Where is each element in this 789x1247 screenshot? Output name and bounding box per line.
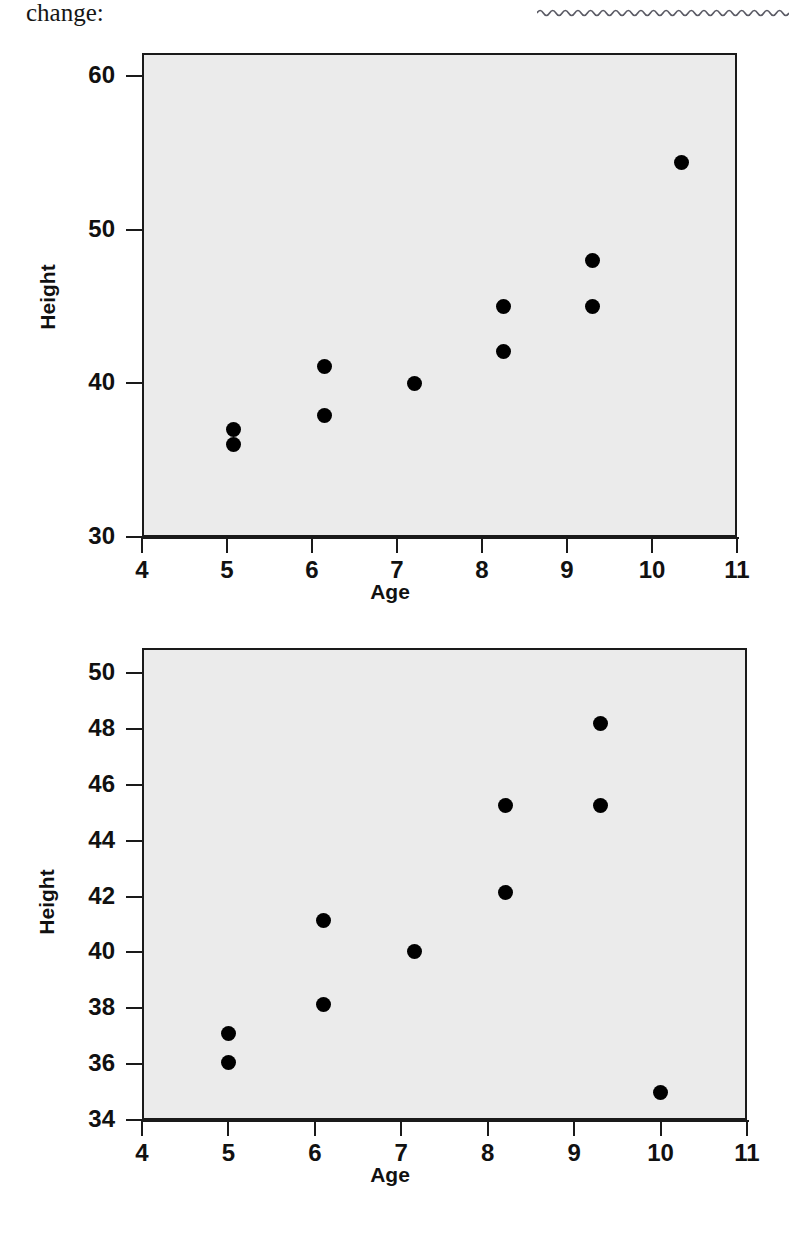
x-tick-mark	[311, 537, 313, 553]
x-axis-title-bottom: Age	[340, 1163, 440, 1187]
plot-area-top	[142, 53, 737, 537]
x-tick-mark	[651, 537, 653, 553]
x-tick-mark	[141, 1120, 143, 1136]
x-tick-mark	[736, 537, 738, 553]
x-tick-mark	[227, 1120, 229, 1136]
y-tick-label-top-3: 60	[27, 61, 115, 89]
x-tick-label-top-1: 5	[197, 556, 257, 584]
x-axis-title-top: Age	[340, 580, 440, 604]
x-tick-mark	[566, 537, 568, 553]
x-tick-mark	[573, 1120, 575, 1136]
y-tick-mark	[126, 229, 142, 231]
x-tick-label-bottom-5: 9	[544, 1139, 604, 1167]
plot-area-bottom	[142, 648, 747, 1120]
x-tick-label-top-2: 6	[282, 556, 342, 584]
y-tick-mark	[126, 1119, 142, 1121]
x-tick-label-bottom-2: 6	[285, 1139, 345, 1167]
data-point	[593, 798, 608, 813]
y-tick-mark	[126, 382, 142, 384]
y-tick-mark	[126, 896, 142, 898]
y-tick-label-bottom-6: 46	[27, 770, 115, 798]
y-tick-mark	[126, 536, 142, 538]
data-point	[407, 376, 422, 391]
x-tick-mark	[141, 537, 143, 553]
data-point	[674, 155, 689, 170]
data-point	[585, 253, 600, 268]
scatter-chart-bottom: 343638404244464850 4567891011 Age Height	[0, 630, 786, 1247]
data-point	[221, 1026, 236, 1041]
y-tick-label-top-0: 30	[27, 522, 115, 550]
y-tick-label-bottom-8: 50	[27, 658, 115, 686]
x-tick-label-top-7: 11	[707, 556, 767, 584]
x-tick-label-bottom-4: 8	[458, 1139, 518, 1167]
x-tick-mark	[481, 537, 483, 553]
x-tick-label-bottom-0: 4	[112, 1139, 172, 1167]
y-tick-mark	[126, 840, 142, 842]
data-point	[496, 299, 511, 314]
y-tick-label-top-2: 50	[27, 215, 115, 243]
x-tick-label-top-4: 8	[452, 556, 512, 584]
y-tick-label-bottom-0: 34	[27, 1105, 115, 1133]
y-tick-label-bottom-7: 48	[27, 714, 115, 742]
data-point	[585, 299, 600, 314]
y-tick-label-bottom-1: 36	[27, 1049, 115, 1077]
x-tick-mark	[314, 1120, 316, 1136]
y-tick-mark	[126, 75, 142, 77]
y-tick-label-bottom-2: 38	[27, 993, 115, 1021]
data-point	[498, 885, 513, 900]
x-tick-mark	[226, 537, 228, 553]
y-axis-title-top: Height	[36, 247, 60, 347]
data-point	[496, 344, 511, 359]
x-tick-label-bottom-7: 11	[717, 1139, 777, 1167]
y-tick-label-top-1: 40	[27, 368, 115, 396]
y-tick-mark	[126, 951, 142, 953]
x-tick-label-top-6: 10	[622, 556, 682, 584]
y-tick-mark	[126, 728, 142, 730]
data-point	[498, 798, 513, 813]
x-tick-mark	[487, 1120, 489, 1136]
scatter-chart-top: 30405060 4567891011 Age Height	[0, 0, 786, 620]
y-tick-mark	[126, 672, 142, 674]
y-tick-label-bottom-5: 44	[27, 826, 115, 854]
y-tick-mark	[126, 1063, 142, 1065]
x-tick-mark	[746, 1120, 748, 1136]
x-tick-label-top-5: 9	[537, 556, 597, 584]
data-point	[593, 716, 608, 731]
x-axis-line-bottom	[142, 1120, 749, 1122]
x-tick-mark	[396, 537, 398, 553]
x-tick-mark	[400, 1120, 402, 1136]
y-tick-mark	[126, 784, 142, 786]
y-tick-mark	[126, 1007, 142, 1009]
data-point	[316, 913, 331, 928]
x-tick-label-bottom-6: 10	[631, 1139, 691, 1167]
x-tick-label-bottom-1: 5	[198, 1139, 258, 1167]
data-point	[316, 997, 331, 1012]
y-axis-title-bottom: Height	[35, 852, 59, 952]
x-tick-label-top-0: 4	[112, 556, 172, 584]
data-point	[653, 1085, 668, 1100]
data-point	[407, 944, 422, 959]
x-tick-mark	[660, 1120, 662, 1136]
x-axis-line-top	[142, 537, 739, 539]
